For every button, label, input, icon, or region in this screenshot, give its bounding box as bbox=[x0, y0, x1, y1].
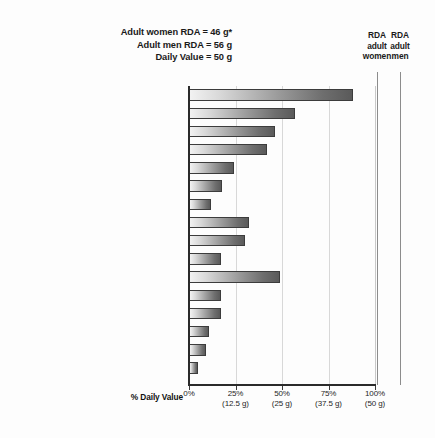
bar-tuna-3-oz bbox=[189, 126, 275, 137]
rda-adult-men-header: RDA adult men bbox=[377, 30, 423, 62]
bar-row bbox=[189, 177, 375, 195]
bar-row bbox=[189, 304, 375, 322]
bar-bread-2-slices bbox=[189, 362, 198, 373]
bar-egg-1-large bbox=[189, 199, 211, 210]
x-axis-label-grams: (50 g) bbox=[345, 399, 405, 409]
x-axis-line bbox=[188, 384, 376, 386]
rda-men-line-2: adult bbox=[377, 41, 423, 52]
bar-peanut-butter-2-tbsp bbox=[189, 180, 222, 191]
bar-row bbox=[189, 86, 375, 104]
bar-row bbox=[189, 213, 375, 231]
bar-pasta-1-cup bbox=[189, 290, 221, 301]
bar-yogurt-plain-1-cup bbox=[189, 235, 245, 246]
bar-row bbox=[189, 159, 375, 177]
bar-row bbox=[189, 122, 375, 140]
title-line-daily-value: Daily Value = 50 g bbox=[0, 51, 232, 64]
bar-row bbox=[189, 286, 375, 304]
bar-white-rice-1-cup bbox=[189, 344, 206, 355]
x-axis-tick-labels: 0%25%(12.5 g)50%(25 g)75%(37.5 g)100%(50… bbox=[0, 389, 435, 429]
x-axis-label-percent: 100% bbox=[345, 389, 405, 399]
gridline-100 bbox=[375, 86, 376, 385]
bar-row bbox=[189, 141, 375, 159]
bar-row bbox=[189, 268, 375, 286]
bar-chicken-breast-3-oz bbox=[189, 108, 295, 119]
bar-row bbox=[189, 323, 375, 341]
bar-legumes-1-cup bbox=[189, 144, 267, 155]
bar-milk-1-cup bbox=[189, 253, 221, 264]
bar-brown-rice-1-cup bbox=[189, 326, 209, 337]
bar-row bbox=[189, 250, 375, 268]
plot-area bbox=[189, 86, 375, 385]
bar-row bbox=[189, 104, 375, 122]
rda-men-line-3: men bbox=[377, 51, 423, 62]
rda-women-reference-line bbox=[377, 72, 378, 385]
bar-row bbox=[189, 359, 375, 377]
title-line-women-rda: Adult women RDA = 46 g* bbox=[0, 26, 232, 39]
title-line-men-rda: Adult men RDA = 56 g bbox=[0, 39, 232, 52]
bar-almonds-2-oz bbox=[189, 162, 234, 173]
bar-row bbox=[189, 232, 375, 250]
x-axis-label-100: 100%(50 g) bbox=[345, 389, 405, 410]
protein-daily-value-bar-chart: Adult women RDA = 46 g* Adult men RDA = … bbox=[0, 0, 435, 438]
bar-tofu-1-cup bbox=[189, 89, 353, 100]
bar-all-bran-cereal-1-cup bbox=[189, 308, 221, 319]
y-axis-line bbox=[188, 86, 190, 385]
bar-edamame-green-soybeans-1-cup bbox=[189, 271, 280, 282]
bar-row bbox=[189, 341, 375, 359]
rda-men-line-1: RDA bbox=[377, 30, 423, 41]
rda-men-reference-line bbox=[400, 72, 401, 385]
bar-row bbox=[189, 195, 375, 213]
chart-title-block: Adult women RDA = 46 g* Adult men RDA = … bbox=[0, 26, 232, 64]
category-label-column: Tofu, 1 cupChicken breast, 3 ozTuna, 3 o… bbox=[0, 86, 186, 385]
bar-cheddar-cheese-2-oz bbox=[189, 217, 249, 228]
